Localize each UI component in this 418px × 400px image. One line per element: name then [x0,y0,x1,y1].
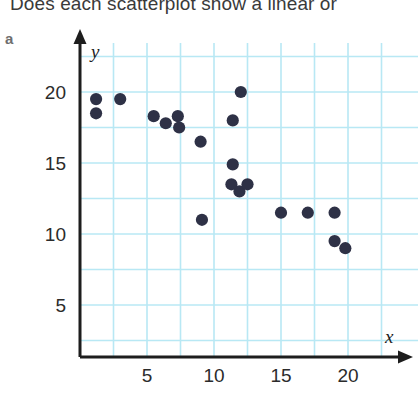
data-point [339,242,351,254]
data-point [302,207,314,219]
data-point [160,117,172,129]
data-point [195,136,207,148]
data-point [114,93,126,105]
x-tick-label: 20 [337,365,358,386]
x-tick-label: 10 [203,365,224,386]
data-point [275,207,287,219]
x-tick-label: 5 [142,365,153,386]
y-tick-label: 15 [45,153,66,174]
data-point [90,107,102,119]
y-tick-label: 10 [45,224,66,245]
data-point [90,93,102,105]
x-tick-label: 15 [270,365,291,386]
data-point [172,110,184,122]
y-axis-arrowhead [74,29,87,44]
y-axis-label: y [89,41,100,62]
data-point [227,114,239,126]
data-point [235,86,247,98]
data-point [148,110,160,122]
data-point [329,207,341,219]
data-point [196,214,208,226]
data-points [90,86,351,254]
x-axis-arrowhead [398,351,413,364]
chart-canvas: 51015205101520 yx [0,0,418,400]
gridlines [80,43,418,357]
x-axis-label: x [384,326,394,347]
data-point [227,158,239,170]
y-tick-label: 20 [45,82,66,103]
scatterplot-page: Does each scatterplot show a linear or a… [0,0,418,400]
y-tick-label: 5 [55,295,66,316]
axes [74,29,414,364]
data-point [241,178,253,190]
data-point [173,121,185,133]
data-point [329,235,341,247]
scatter-chart: 51015205101520 yx [0,0,418,400]
